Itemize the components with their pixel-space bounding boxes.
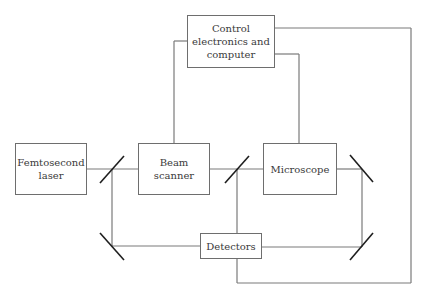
detectors-box: Detectors (200, 233, 262, 259)
detectors-label: Detectors (206, 240, 255, 253)
beam-scanner-box: Beam scanner (138, 143, 210, 195)
microscope-label: Microscope (271, 163, 330, 176)
control-electronics-box: Control electronics and computer (187, 15, 275, 68)
microscope-box: Microscope (263, 143, 337, 195)
control-electronics-label: Control electronics and computer (192, 22, 270, 61)
beam-scanner-label: Beam scanner (154, 156, 194, 182)
femtosecond-laser-box: Femtosecond laser (15, 143, 87, 195)
femtosecond-laser-label: Femtosecond laser (17, 156, 84, 182)
